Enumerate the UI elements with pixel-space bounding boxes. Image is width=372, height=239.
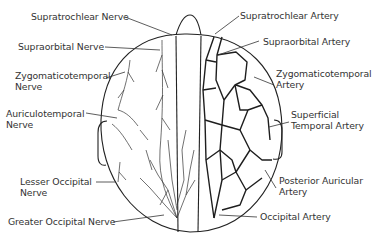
midline-right	[198, 36, 201, 232]
head-outline	[101, 34, 282, 232]
label-supraorbital-nerve: Supraorbital Nerve	[18, 41, 104, 52]
label-posterior-auricular-artery: Posterior Auricular Artery	[279, 175, 363, 197]
label-lesser-occipital-nerve: Lesser Occipital Nerve	[20, 176, 92, 198]
label-supratrochlear-nerve: Supratrochlear Nerve	[31, 11, 129, 22]
leader-lines	[86, 16, 289, 222]
label-occipital-artery: Occipital Artery	[260, 211, 331, 222]
label-auriculotemporal-nerve: Auriculotemporal Nerve	[6, 108, 84, 130]
label-supraorbital-artery: Supraorbital Artery	[263, 36, 350, 47]
nose-outline	[176, 15, 201, 35]
label-supratrochlear-artery: Supratrochlear Artery	[240, 10, 339, 21]
nerve-branches	[112, 40, 195, 218]
label-zygomaticotemporal-nerve: Zygomaticotemporal Nerve	[15, 70, 111, 92]
label-zygomaticotemporal-artery: Zygomaticotemporal Artery	[276, 68, 372, 90]
label-greater-occipital-nerve: Greater Occipital Nerve	[8, 216, 115, 227]
label-superficial-temporal-artery: Superficial Temporal Artery	[291, 109, 364, 131]
